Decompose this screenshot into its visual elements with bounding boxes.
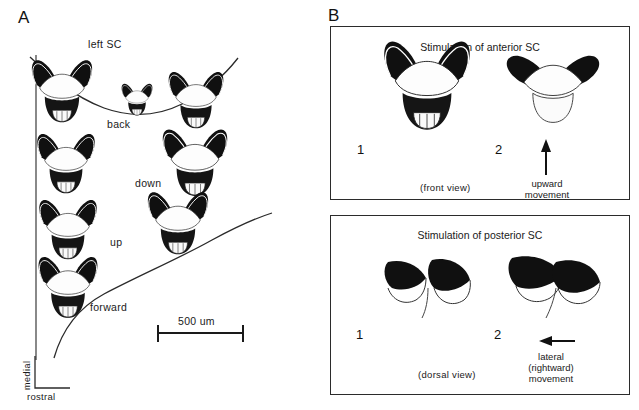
posterior-movement-line1: lateral (512, 351, 590, 362)
posterior-movement-caption: lateral (rightward) movement (512, 351, 590, 384)
scale-bar-label: 500 um (178, 315, 215, 327)
posterior-movement-line2: (rightward) (512, 362, 590, 373)
posterior-movement-line3: movement (512, 373, 590, 384)
bat-head-a-down-right (163, 129, 227, 196)
scale-bar (158, 325, 243, 342)
bat-head-a-forward-left (39, 257, 98, 318)
anterior-view-label: (front view) (420, 182, 471, 193)
anterior-movement-line2: movement (512, 189, 582, 200)
anterior-movement-caption: upward movement (512, 178, 582, 200)
panel-a-title: left SC (88, 38, 122, 50)
axis-label-rostral: rostral (27, 391, 56, 402)
anterior-sc-title: Stimulation of anterior SC (330, 41, 630, 53)
anterior-frame-number-2: 2 (495, 142, 502, 157)
bat-head-a-back-mid (122, 84, 153, 116)
posterior-frame-number-1: 1 (356, 327, 363, 342)
movement-label-forward: forward (90, 301, 127, 313)
bat-head-a-up-right (148, 192, 208, 254)
orientation-axis-marker (35, 356, 70, 388)
posterior-view-label: (dorsal view) (418, 369, 476, 380)
posterior-frame-number-2: 2 (494, 327, 501, 342)
anterior-frame-number-1: 1 (357, 142, 364, 157)
bat-head-a-up-left (39, 200, 96, 259)
movement-label-down: down (135, 177, 161, 189)
figure-container: A left SC back down up forward medial ro… (0, 0, 639, 410)
panel-a-letter: A (18, 8, 30, 28)
axis-label-medial: medial (22, 360, 32, 390)
bat-head-a-down-left (37, 134, 94, 193)
anterior-movement-line1: upward (512, 178, 582, 189)
trajectory-curve-back (30, 57, 238, 114)
trajectory-curve-forward (54, 213, 272, 358)
movement-label-up: up (110, 236, 122, 248)
posterior-sc-title: Stimulation of posterior SC (330, 229, 630, 241)
movement-label-back: back (107, 118, 130, 130)
bat-head-a-back-right (169, 72, 224, 128)
panel-b-letter: B (328, 6, 340, 26)
bat-head-a-back-left (32, 60, 92, 122)
